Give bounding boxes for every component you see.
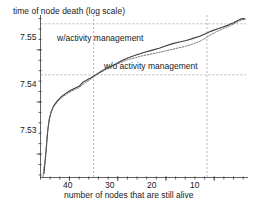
data-series (43, 19, 245, 177)
axis-spines (41, 15, 249, 178)
chart-container: time of node death (log scale) 7.55 7.54… (0, 0, 253, 206)
axis-ticks (37, 19, 244, 181)
reference-lines (41, 15, 247, 178)
plot-area (0, 0, 253, 206)
